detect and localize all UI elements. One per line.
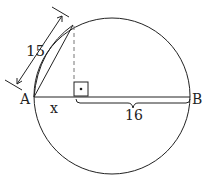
tick-lower [5, 80, 22, 90]
label-a: A [19, 91, 31, 107]
circle-diagram: 15 A B x 16 [0, 0, 207, 193]
circle [34, 18, 190, 174]
label-15: 15 [26, 42, 45, 60]
chord-a [34, 25, 73, 97]
tick-upper [52, 7, 69, 17]
label-16: 16 [125, 107, 143, 123]
label-b: B [192, 91, 202, 107]
label-x: x [50, 100, 58, 116]
right-angle-dot [80, 88, 83, 91]
